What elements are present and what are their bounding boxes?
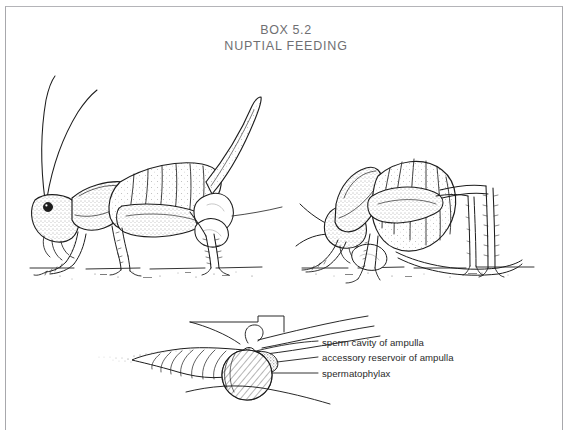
- right-spermatophylax-food: [352, 244, 387, 270]
- left-ground-line: [30, 267, 262, 269]
- left-cercus: [232, 207, 282, 216]
- figure-page: BOX 5.2 NUPTIAL FEEDING: [0, 0, 572, 430]
- left-spermatophore: [194, 193, 233, 247]
- left-ovipositor: [206, 97, 261, 194]
- nuptial-feeding-illustration: [0, 0, 572, 430]
- left-eye: [43, 202, 52, 211]
- left-ground-stipple: [44, 272, 252, 280]
- left-cricket-group: [30, 76, 282, 279]
- leader-sperm-cavity: [256, 341, 318, 351]
- spermatophore-body-outline: [190, 316, 284, 344]
- callout-label-spermatophylax: spermatophylax: [322, 368, 390, 379]
- callout-label-sperm-cavity: sperm cavity of ampulla: [322, 337, 424, 348]
- callout-label-accessory-reservoir: accessory reservoir of ampulla: [322, 352, 454, 363]
- right-cricket-group: [296, 159, 534, 283]
- right-ovipositor: [396, 252, 522, 275]
- left-antennae: [42, 76, 97, 200]
- spermatophore-hook: [245, 325, 263, 343]
- spermatophore-ducts: [258, 316, 380, 354]
- leader-accessory: [277, 357, 318, 362]
